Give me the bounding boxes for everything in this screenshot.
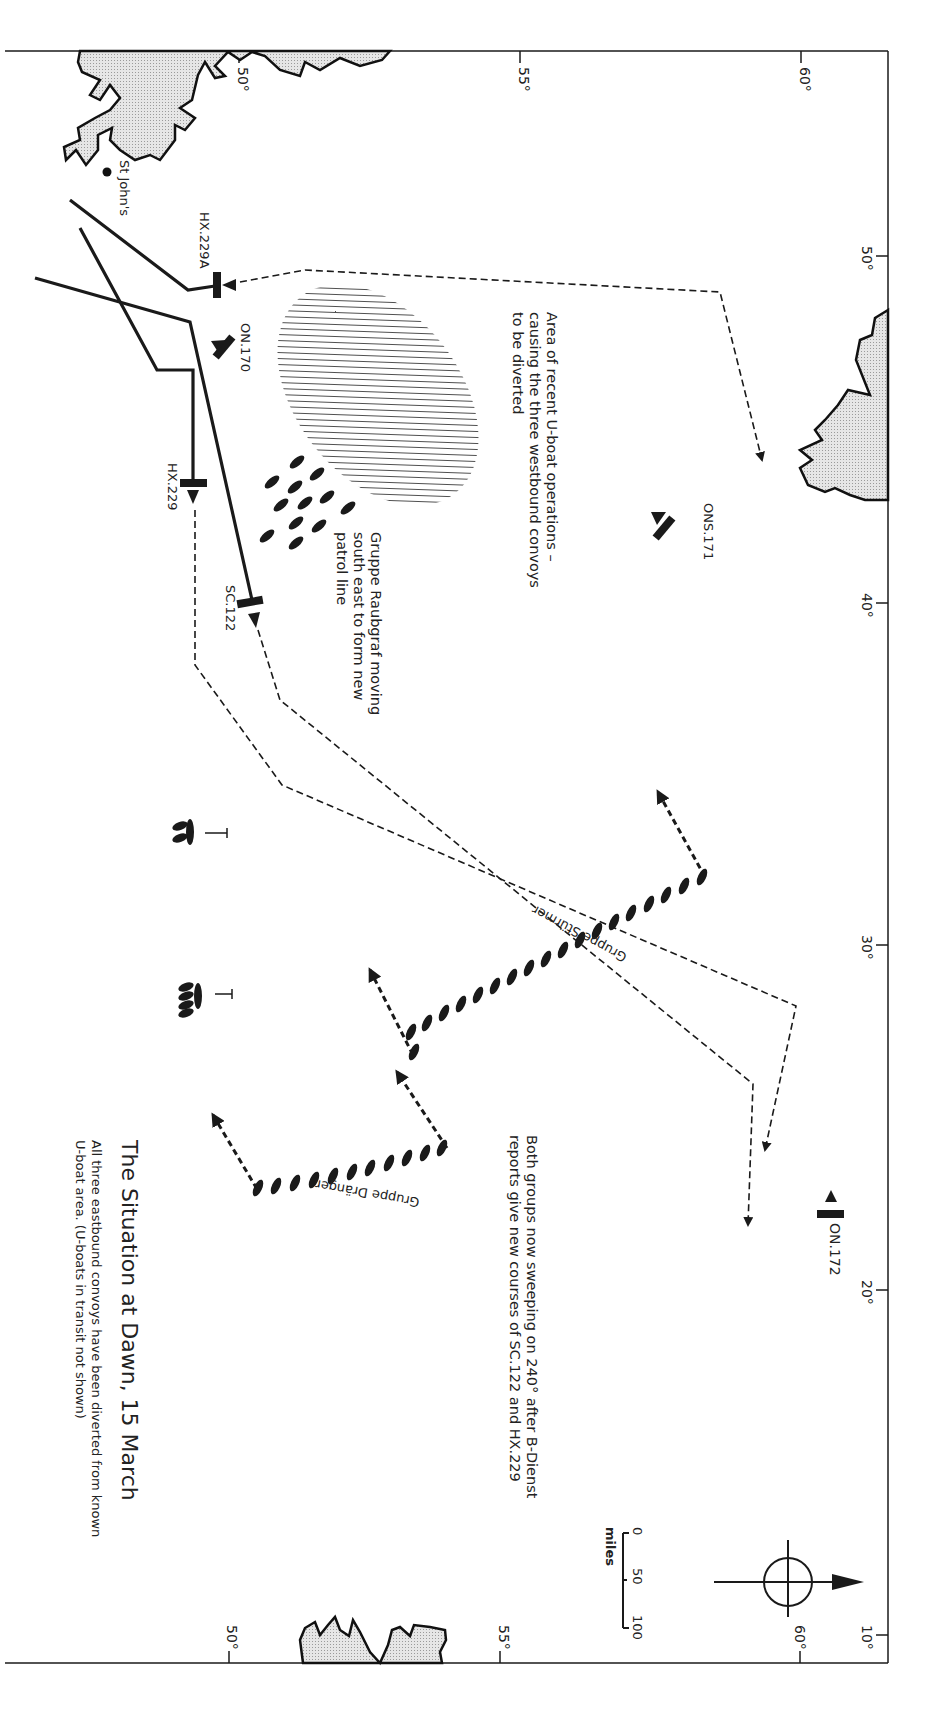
lon-label-50: 50° xyxy=(859,246,875,271)
convoy-label-hx229a: HX.229A xyxy=(197,212,212,269)
convoy-label-on172: ON.172 xyxy=(827,1223,843,1276)
note-sweep: Both groups now sweeping on 240° after B… xyxy=(506,1135,540,1498)
compass-north-arrow xyxy=(714,1540,864,1617)
on172-arrow xyxy=(825,1190,837,1202)
map-title: The Situation at Dawn, 15 March xyxy=(117,1140,142,1501)
sc122-arrow xyxy=(248,612,260,628)
place-st-johns: St John's xyxy=(117,160,132,216)
land-ireland xyxy=(300,1617,446,1663)
scale-tick-50: 50 xyxy=(630,1568,645,1585)
hx229a-arrow xyxy=(222,279,236,291)
track-sc122 xyxy=(35,278,252,600)
tanker-group-2 xyxy=(177,981,232,1020)
convoy-hx229a-marker xyxy=(213,272,221,298)
convoy-label-sc122: SC.122 xyxy=(223,585,238,631)
scale-bar xyxy=(623,1533,629,1628)
convoy-label-ons171: ONS.171 xyxy=(701,503,716,560)
note-uboat-area: Area of recent U-boat operations – causi… xyxy=(509,312,560,588)
map-subtitle: All three eastbound convoys have been di… xyxy=(72,1140,104,1537)
lat-label-bottom-55: 55° xyxy=(496,1625,512,1650)
lat-label-top-60: 60° xyxy=(797,67,813,92)
lon-label-10: 10° xyxy=(859,1625,875,1650)
uboat-sweep-arrows xyxy=(213,792,705,1189)
lat-label-bottom-50: 50° xyxy=(224,1625,240,1650)
convoy-label-on170: ON.170 xyxy=(238,323,253,372)
convoy-on172-marker xyxy=(817,1210,844,1218)
hx229-arrow xyxy=(187,490,199,504)
land-newfoundland xyxy=(64,51,390,165)
tanker-group-1 xyxy=(171,819,227,845)
route-hx229 xyxy=(195,510,796,1150)
convoy-hx229-marker xyxy=(180,479,207,487)
st-johns-marker xyxy=(103,168,112,177)
diverted-routes xyxy=(195,270,796,1225)
land-greenland xyxy=(800,310,888,500)
lat-label-top-50: 50° xyxy=(235,67,251,92)
convoy-label-hx229: HX.229 xyxy=(165,463,180,511)
scale-tick-0: 0 xyxy=(630,1527,645,1535)
lon-label-40: 40° xyxy=(859,593,875,618)
uboat-operations-area xyxy=(236,246,519,544)
lat-label-bottom-60: 60° xyxy=(792,1625,808,1650)
scale-unit: miles xyxy=(603,1527,618,1566)
lon-label-30: 30° xyxy=(859,935,875,960)
lon-label-20: 20° xyxy=(859,1280,875,1305)
scale-tick-100: 100 xyxy=(630,1615,645,1640)
note-raubgraf: Gruppe Raubgraf moving south east to for… xyxy=(333,532,384,715)
track-hx229a xyxy=(70,200,215,290)
gruppe-sturmer-uboats xyxy=(404,867,710,1062)
track-hx229 xyxy=(80,228,193,480)
convoy-tracks xyxy=(35,200,252,600)
lat-label-top-55: 55° xyxy=(516,67,532,92)
